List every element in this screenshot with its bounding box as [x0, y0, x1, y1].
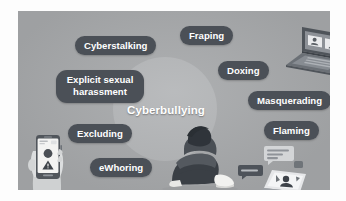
hand-holding-smartphone-warning — [26, 129, 72, 190]
cyberbullying-infographic: Cyberbullying Cyberstalking Fraping Doxi… — [0, 0, 346, 201]
node-excluding[interactable]: Excluding — [68, 124, 132, 143]
laptop-with-chat-bubbles — [232, 144, 330, 190]
node-explicit-sexual-harassment[interactable]: Explicit sexual harassment — [56, 70, 144, 103]
node-fraping[interactable]: Fraping — [180, 26, 233, 45]
node-cyberstalking[interactable]: Cyberstalking — [75, 36, 156, 55]
center-label: Cyberbullying — [96, 104, 236, 116]
node-flaming[interactable]: Flaming — [264, 121, 319, 140]
infographic-panel: Cyberbullying Cyberstalking Fraping Doxi… — [18, 11, 330, 190]
seated-person-illustration — [158, 123, 240, 190]
laptop-with-video-call-icon — [284, 23, 330, 79]
node-ewhoring[interactable]: eWhoring — [90, 158, 152, 177]
node-masquerading[interactable]: Masquerading — [248, 91, 330, 110]
node-doxing[interactable]: Doxing — [218, 61, 269, 80]
